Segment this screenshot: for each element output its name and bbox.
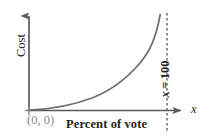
cost-vs-percent-of-vote-chart: Cost Percent of vote (0, 0) x = 100 x bbox=[0, 0, 206, 138]
asymptote-value: 100 bbox=[158, 60, 172, 79]
asymptote-variable: x bbox=[158, 91, 172, 97]
asymptote-label: x = 100 bbox=[159, 51, 173, 107]
origin-coordinate-label: (0, 0) bbox=[27, 114, 54, 127]
x-axis-label: Percent of vote bbox=[66, 118, 147, 131]
y-axis-label: Cost bbox=[15, 17, 29, 57]
x-axis-variable-label: x bbox=[191, 103, 197, 116]
asymptote-equals: = bbox=[158, 82, 172, 89]
cost-curve bbox=[30, 15, 161, 111]
